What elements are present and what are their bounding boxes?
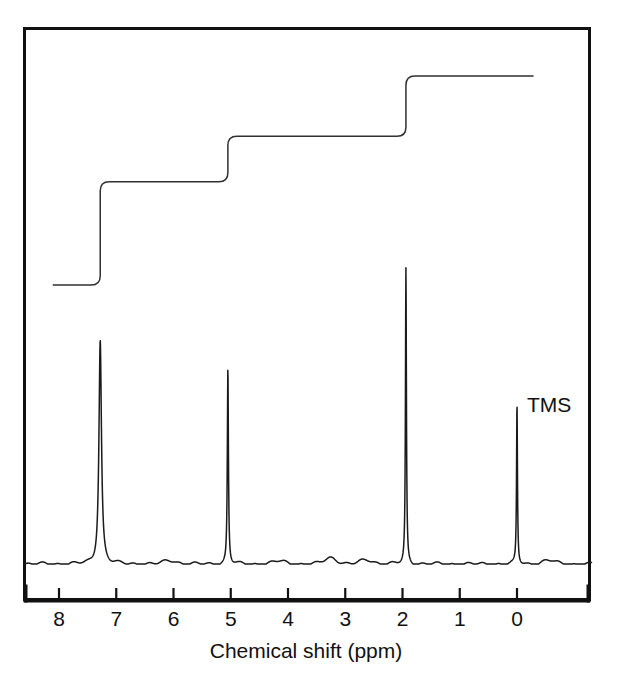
spectrum-canvas: TMS 876543210 Chemical shift (ppm) bbox=[0, 0, 619, 683]
tick-label-5: 5 bbox=[225, 607, 237, 630]
nmr-spectrum-figure: TMS 876543210 Chemical shift (ppm) bbox=[0, 0, 619, 683]
tick-label-8: 8 bbox=[53, 607, 65, 630]
x-axis-title: Chemical shift (ppm) bbox=[210, 639, 403, 662]
tick-label-6: 6 bbox=[168, 607, 180, 630]
tick-label-3: 3 bbox=[339, 607, 351, 630]
tms-peak-label: TMS bbox=[527, 393, 571, 416]
tick-label-0: 0 bbox=[511, 607, 523, 630]
tick-label-7: 7 bbox=[110, 607, 122, 630]
tick-label-2: 2 bbox=[397, 607, 409, 630]
tick-label-4: 4 bbox=[282, 607, 294, 630]
plot-frame bbox=[25, 29, 590, 600]
tick-label-1: 1 bbox=[454, 607, 466, 630]
